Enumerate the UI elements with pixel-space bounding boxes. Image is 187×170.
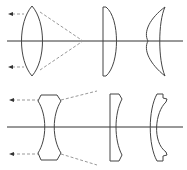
arrow-icon <box>9 152 14 156</box>
incoming-ray-bottom <box>9 152 38 156</box>
incoming-ray-top <box>9 98 38 102</box>
arrow-icon <box>9 98 14 102</box>
converging-ray-lower <box>40 41 83 70</box>
arrow-icon <box>8 65 13 69</box>
arrow-icon <box>8 12 13 16</box>
diverging-ray-lower <box>61 154 97 165</box>
converging-ray-upper <box>40 12 83 41</box>
lens-diagram <box>0 0 187 170</box>
converging-row <box>7 6 183 76</box>
incoming-ray-top <box>8 12 24 16</box>
diverging-ray-upper <box>61 91 97 100</box>
incoming-ray-bottom <box>8 65 24 69</box>
diverging-row <box>7 91 183 165</box>
